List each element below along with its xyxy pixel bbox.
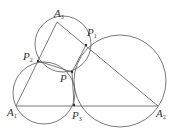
- point-P3: [73, 104, 75, 106]
- circle-A2-P1-P-P3: [74, 35, 166, 127]
- label-P2: P2: [23, 51, 33, 63]
- label-P: P: [60, 73, 67, 84]
- segment-P3-P: [72, 72, 74, 105]
- geometry-diagram: A3 P1 P2 P A1 P3 A2: [0, 0, 178, 136]
- label-A1: A1: [7, 107, 17, 119]
- label-A2: A2: [156, 108, 166, 120]
- label-P3: P3: [72, 110, 82, 122]
- label-A3: A3: [54, 8, 64, 20]
- segment-P1-P: [72, 45, 86, 72]
- point-P2: [37, 60, 39, 62]
- label-P1: P1: [87, 27, 97, 39]
- circle-A3-P2-P-P1: [35, 16, 91, 72]
- side-A3-A2: [57, 22, 158, 106]
- segment-P2-P: [38, 61, 72, 72]
- point-P1: [85, 44, 87, 46]
- diagram-canvas: [0, 0, 178, 136]
- point-P: [71, 71, 73, 73]
